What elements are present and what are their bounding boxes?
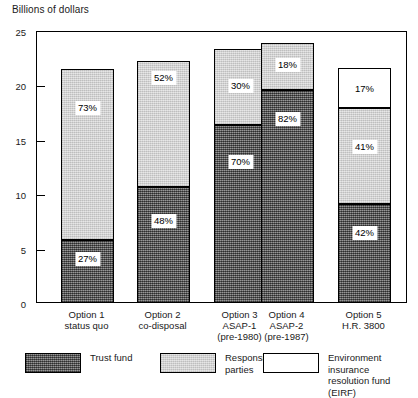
bar-segment-percent-label: 70%: [228, 155, 253, 169]
legend-item[interactable]: Trust fund: [25, 352, 132, 373]
bar-segment-responsible[interactable]: 52%: [137, 61, 190, 187]
bar-segment-percent-label: 17%: [352, 82, 377, 96]
x-axis-category-line: co-disposal: [118, 320, 207, 331]
legend-label: Environment insurance resolution fund (E…: [328, 352, 418, 398]
bar-column[interactable]: 48%52%: [137, 59, 190, 302]
legend-swatch-responsible: [160, 353, 216, 373]
bar-segment-percent-label: 27%: [75, 252, 100, 266]
bar-segment-trust[interactable]: 27%: [61, 240, 114, 303]
bar-segment-responsible[interactable]: 18%: [261, 43, 314, 90]
x-axis-category-line: (pre-1987): [242, 331, 331, 342]
bar-segment-percent-label: 52%: [151, 71, 176, 85]
x-axis-category-line: Option 5: [319, 309, 408, 320]
y-axis-tick-mark: [37, 195, 45, 196]
x-axis-category-label: Option 5H.R. 3800: [319, 309, 408, 331]
bar-segment-trust[interactable]: 48%: [137, 187, 190, 303]
bar-segment-percent-label: 82%: [275, 112, 300, 126]
bar-segment-percent-label: 42%: [352, 226, 377, 240]
y-axis-tick-label: 15: [15, 135, 26, 146]
x-axis-category-label: Option 2co-disposal: [118, 309, 207, 331]
y-axis-tick-label: 10: [15, 190, 26, 201]
x-axis-category-line: H.R. 3800: [319, 320, 408, 331]
x-axis-category-line: Option 2: [118, 309, 207, 320]
bar-segment-percent-label: 41%: [352, 140, 377, 154]
bar-column[interactable]: 70%30%: [214, 47, 267, 302]
legend-label: Trust fund: [90, 352, 132, 364]
y-axis-tick-mark: [37, 250, 45, 251]
y-axis-title: Billions of dollars: [12, 4, 89, 15]
x-axis-category-label: Option 4ASAP-2(pre-1987): [242, 309, 331, 343]
bar-column[interactable]: 42%41%17%: [338, 67, 391, 302]
plot-area: 0510152025 27%73%48%52%70%30%82%18%42%41…: [36, 31, 407, 303]
x-axis-category-line: Option 4: [242, 309, 331, 320]
legend-item[interactable]: Environment insurance resolution fund (E…: [263, 352, 418, 398]
bar-segment-responsible[interactable]: 30%: [214, 49, 267, 125]
bar-segment-responsible[interactable]: 41%: [338, 108, 391, 205]
y-axis-tick-label: 0: [21, 299, 26, 310]
y-axis-tick-label: 20: [15, 81, 26, 92]
bar-column[interactable]: 82%18%: [261, 42, 314, 302]
y-axis-tick-mark: [37, 141, 45, 142]
bar-segment-trust[interactable]: 82%: [261, 90, 314, 303]
bar-segment-trust[interactable]: 42%: [338, 204, 391, 303]
bar-segment-trust[interactable]: 70%: [214, 125, 267, 303]
bar-segment-percent-label: 48%: [151, 214, 176, 228]
bar-segment-eirf[interactable]: 17%: [338, 68, 391, 107]
bar-segment-percent-label: 73%: [75, 101, 100, 115]
legend-swatch-trust: [25, 353, 81, 373]
x-axis-category-line: ASAP-2: [242, 320, 331, 331]
bar-segment-percent-label: 18%: [275, 58, 300, 72]
y-axis-tick-label: 25: [15, 27, 26, 38]
legend-item[interactable]: Responsible parties: [160, 352, 277, 375]
bar-column[interactable]: 27%73%: [61, 68, 114, 302]
y-axis-tick-label: 5: [21, 244, 26, 255]
legend-swatch-eirf: [263, 353, 319, 373]
bar-segment-responsible[interactable]: 73%: [61, 69, 114, 240]
y-axis-tick-mark: [37, 86, 45, 87]
bar-segment-percent-label: 30%: [228, 79, 253, 93]
chart-legend: Trust fundResponsible partiesEnvironment…: [0, 352, 418, 391]
